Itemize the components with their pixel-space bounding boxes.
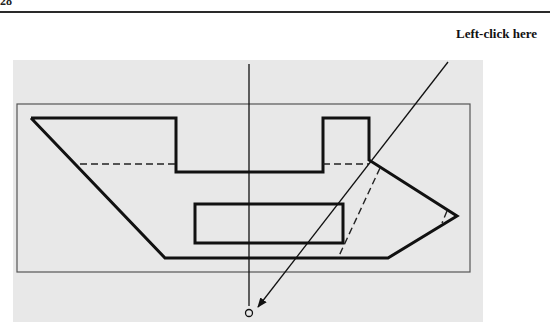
drawing-viewport[interactable] [13,60,483,322]
cad-drawing [0,0,550,336]
